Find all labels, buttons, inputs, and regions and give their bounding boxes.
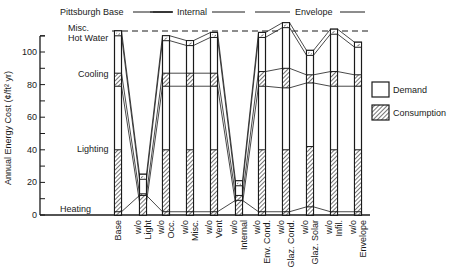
legend: Demand Consumption bbox=[372, 82, 446, 120]
y-axis: 020406080100 Annual Energy Cost (¢/ft² y… bbox=[3, 36, 45, 220]
bar-w-o-occ- bbox=[163, 36, 170, 215]
x-label: Light bbox=[143, 220, 153, 240]
legend-label-consumption: Consumption bbox=[393, 108, 446, 118]
x-label-prefix: w/o bbox=[180, 220, 190, 235]
x-label: Glaz. Cond. bbox=[286, 220, 296, 268]
component-labels: Misc. Hot Water Cooling Lighting Heating bbox=[60, 23, 109, 214]
y-tick-label: 20 bbox=[27, 177, 37, 187]
bar-w-o-vent bbox=[211, 32, 218, 215]
component-label-misc: Misc. bbox=[68, 23, 89, 33]
bar-w-o-glaz-cond- bbox=[283, 23, 290, 215]
x-label: Infil. bbox=[334, 220, 344, 237]
group-label-envelope: Envelope bbox=[295, 7, 333, 17]
bar-w-o-glaz-solar bbox=[307, 50, 314, 215]
y-tick-label: 100 bbox=[22, 47, 37, 57]
y-tick-label: 0 bbox=[32, 210, 37, 220]
bar-w-o-env-cond- bbox=[259, 32, 266, 215]
component-label-cooling: Cooling bbox=[78, 69, 109, 79]
bar-w-o-envelope bbox=[355, 42, 362, 215]
group-label-internal: Internal bbox=[177, 7, 207, 17]
bars bbox=[115, 23, 362, 215]
x-label: Occ. bbox=[166, 220, 176, 239]
x-label-prefix: w/o bbox=[276, 220, 286, 235]
bar-w-o-infil- bbox=[331, 29, 338, 215]
legend-swatch-consumption bbox=[372, 105, 389, 120]
y-axis-label: Annual Energy Cost (¢/ft² yr) bbox=[3, 71, 13, 185]
x-label: Misc. bbox=[190, 220, 200, 241]
x-label-prefix: w/o bbox=[229, 220, 239, 235]
x-label: Base bbox=[113, 220, 123, 241]
bar-w-o-misc- bbox=[187, 41, 194, 215]
y-tick-label: 40 bbox=[27, 145, 37, 155]
group-headers: Pittsburgh Base Internal Envelope bbox=[60, 7, 365, 17]
x-label-prefix: w/o bbox=[204, 220, 214, 235]
x-label-prefix: w/o bbox=[133, 220, 143, 235]
x-label-prefix: w/o bbox=[252, 220, 262, 235]
y-tick-label: 80 bbox=[27, 80, 37, 90]
bar-connectors bbox=[115, 23, 355, 212]
component-label-heating: Heating bbox=[60, 204, 91, 214]
energy-cost-chart: Pittsburgh Base Internal Envelope 020406… bbox=[0, 0, 458, 275]
bar-w-o-internal bbox=[236, 181, 243, 215]
x-label: Vent bbox=[214, 220, 224, 239]
group-label-base: Pittsburgh Base bbox=[60, 7, 124, 17]
x-label: Envelope bbox=[358, 220, 368, 258]
x-label-prefix: w/o bbox=[348, 220, 358, 235]
x-label: Glaz. Solar bbox=[310, 220, 320, 265]
component-label-hot-water: Hot Water bbox=[68, 33, 108, 43]
x-axis-labels: Basew/oLightw/oOcc.w/oMisc.w/oVentw/oInt… bbox=[113, 220, 368, 268]
x-label: Env. Cond. bbox=[262, 220, 272, 264]
x-label-prefix: w/o bbox=[324, 220, 334, 235]
bar-w-o-light bbox=[140, 174, 147, 215]
x-label: Internal bbox=[239, 220, 249, 250]
y-tick-label: 60 bbox=[27, 112, 37, 122]
legend-swatch-demand bbox=[372, 82, 389, 97]
legend-label-demand: Demand bbox=[393, 85, 427, 95]
x-label-prefix: w/o bbox=[300, 220, 310, 235]
x-label-prefix: w/o bbox=[156, 220, 166, 235]
component-label-lighting: Lighting bbox=[77, 144, 109, 154]
bar-base bbox=[115, 31, 122, 215]
